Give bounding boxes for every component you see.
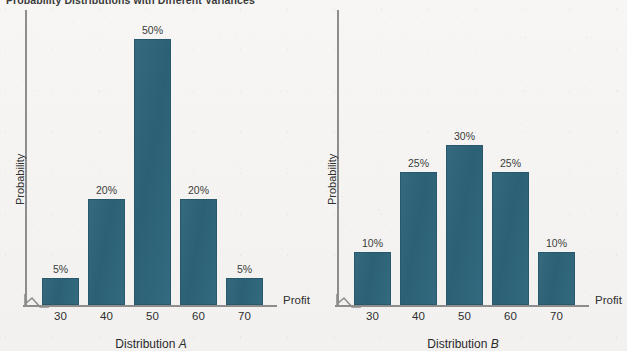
bar [400,172,437,305]
bar [42,278,79,305]
x-tick-label: 40 [82,310,131,322]
x-tick-label: 30 [36,310,85,322]
x-axis-line-b [335,305,589,307]
caption-prefix-a: Distribution [115,337,175,351]
x-tick-label: 70 [220,310,269,322]
bar-value-label: 50% [128,24,177,36]
x-axis-line-a [23,305,277,307]
bar [446,145,483,305]
x-tick-label: 50 [440,310,489,322]
panel-caption-b: Distribution B [337,337,589,351]
caption-letter-a: A [179,337,187,351]
x-tick-label: 30 [348,310,397,322]
bar [88,199,125,305]
bar [492,172,529,305]
x-tick-label: 50 [128,310,177,322]
x-tick-label: 70 [532,310,581,322]
panel-caption-a: Distribution A [25,337,277,351]
y-axis-label-b: Probability [326,154,338,205]
bar-value-label: 30% [440,130,489,142]
bar-value-label: 10% [532,237,581,249]
x-tick-label: 60 [174,310,223,322]
bar [134,39,171,305]
x-axis-label-a: Profit [283,294,310,306]
bar [538,252,575,305]
x-tick-label: 60 [486,310,535,322]
y-axis-label-a: Probability [14,154,26,205]
caption-prefix-b: Distribution [427,337,487,351]
bar [180,199,217,305]
chart-panel-distribution-b: Probability Profit Distribution B 10%302… [312,0,625,351]
bar-value-label: 5% [36,263,85,275]
caption-letter-b: B [491,337,499,351]
bar-value-label: 25% [486,157,535,169]
x-tick-label: 40 [394,310,443,322]
figure-page: Probability Distributions with Different… [0,0,627,351]
bar [354,252,391,305]
bar-value-label: 20% [82,184,131,196]
bar-value-label: 5% [220,263,269,275]
bar-value-label: 20% [174,184,223,196]
x-axis-label-b: Profit [595,294,622,306]
chart-panel-distribution-a: Probability Profit Distribution A 5%3020… [0,0,313,351]
bar-value-label: 10% [348,237,397,249]
bar-value-label: 25% [394,157,443,169]
bar [226,278,263,305]
